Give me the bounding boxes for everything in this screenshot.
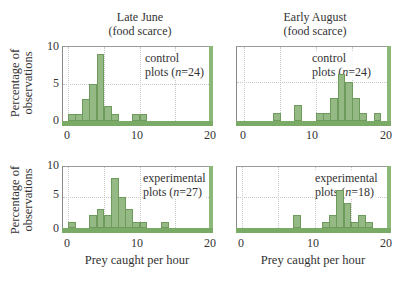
histogram-bar [293,215,301,228]
x-axis-band [236,121,391,126]
histogram-bar [140,114,148,121]
y-tick-0: 0 [43,113,59,128]
gridline-vertical [278,167,279,228]
gridline-vertical [244,47,245,121]
histogram-bar [68,222,76,228]
y-tick-5: 5 [43,76,59,91]
column-title-line2: (food scarce) [85,24,195,38]
legend-line2: plots (n=18) [315,185,378,199]
histogram-bar [273,113,281,121]
x-tick-20: 20 [376,236,396,251]
frame-right-band [209,46,213,126]
x-tick-0: 0 [57,128,77,143]
histogram-bar [374,113,382,121]
histogram-early-august-experimental: experimental plots (n=18) [236,166,387,228]
histogram-early-august-control: control plots (n=24) [236,46,387,121]
frame-right-band [387,46,391,126]
legend: experimental plots (n=27) [143,171,206,199]
histogram-bar [140,222,148,228]
column-title-late-june: Late June (food scarce) [85,10,195,38]
legend-line2: plots (n=27) [143,185,206,199]
column-title-line1: Early August [255,10,375,24]
x-axis-label-right: Prey caught per hour [236,253,390,268]
x-axis-band [236,228,391,233]
column-title-line2: (food scarce) [255,24,375,38]
y-axis-label-top: Percentage of observations [9,43,35,123]
gridline-vertical [68,47,69,121]
gridline-vertical [242,167,243,228]
histogram-bar [365,222,373,228]
frame-right-band [209,166,213,233]
x-tick-20: 20 [376,128,396,143]
histogram-bar [294,105,302,121]
histogram-bar [111,114,119,121]
frame-right-band [387,166,391,233]
legend-line2: plots (n=24) [145,65,204,79]
x-tick-20: 20 [200,236,220,251]
histogram-bar [359,113,367,121]
y-tick-10: 10 [43,39,59,54]
x-tick-10: 10 [302,128,322,143]
y-tick-0: 0 [43,221,59,236]
x-tick-10: 10 [127,236,147,251]
gridline-vertical [68,167,69,228]
histogram-late-june-control: control plots (n=24) [62,46,209,121]
gridline-vertical [280,47,281,121]
histogram-late-june-experimental: experimental plots (n=27) [62,166,209,228]
x-tick-0: 0 [233,128,253,143]
x-tick-0: 0 [57,236,77,251]
y-axis-label-bottom: Percentage of observations [9,160,35,240]
gridline-vertical [140,167,141,228]
y-axis-label-line2: observations [22,160,35,240]
x-axis-band [62,121,213,126]
y-axis-label-line2: observations [22,43,35,123]
column-title-early-august: Early August (food scarce) [255,10,375,38]
y-tick-5: 5 [43,187,59,202]
column-title-line1: Late June [85,10,195,24]
legend-line1: control [312,51,371,65]
x-tick-20: 20 [200,128,220,143]
legend: control plots (n=24) [145,51,204,79]
y-tick-10: 10 [43,158,59,173]
legend-line1: control [145,51,204,65]
x-axis-label-left: Prey caught per hour [62,253,212,268]
gridline-horizontal [63,84,209,85]
x-axis-band [62,228,213,233]
x-tick-0: 0 [231,236,251,251]
legend-line1: experimental [315,171,378,185]
gridline-vertical [140,47,141,121]
x-tick-10: 10 [303,236,323,251]
histogram-bar [161,222,169,228]
legend: experimental plots (n=18) [315,171,378,199]
gridline-horizontal [237,82,387,83]
legend-line1: experimental [143,171,206,185]
x-tick-10: 10 [127,128,147,143]
